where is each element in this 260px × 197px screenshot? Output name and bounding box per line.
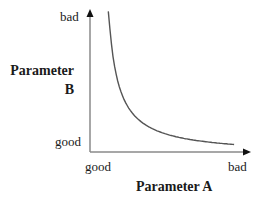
x-axis-title: Parameter A	[136, 180, 212, 194]
y-axis-title-line2: B	[10, 83, 74, 97]
chart-canvas	[0, 0, 260, 197]
y-tick-good: good	[55, 135, 81, 148]
x-tick-good: good	[85, 160, 111, 173]
x-tick-bad: bad	[228, 160, 247, 173]
y-axis-title: Parameter B	[10, 64, 74, 97]
y-axis-arrow-icon	[87, 9, 94, 17]
y-axis-title-line1: Parameter	[10, 64, 74, 78]
y-tick-bad: bad	[60, 10, 79, 23]
trade-off-curve	[108, 11, 234, 144]
x-axis-arrow-icon	[243, 149, 251, 156]
